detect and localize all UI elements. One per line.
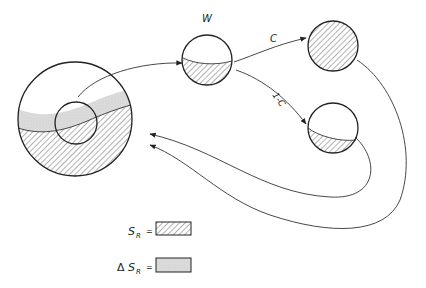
legend-delta-symbol: Δ [117, 261, 125, 274]
legend-sr-symbol: S [128, 225, 135, 238]
legend-sr: S R = [128, 222, 191, 240]
legend-sr-equals: = [146, 227, 153, 236]
legend: S R = Δ S R = [117, 222, 191, 276]
w-sphere [180, 35, 234, 90]
legend-delta-sr: Δ S R = [117, 258, 191, 276]
legend-delta-sr-subscript: R [136, 268, 141, 276]
legend-delta-sr-equals: = [146, 263, 153, 272]
legend-sr-subscript: R [136, 232, 141, 240]
w-label: W [202, 13, 213, 24]
edge-return-outer [150, 60, 406, 229]
legend-delta-sr-symbol: S [128, 261, 135, 274]
edge-c-label: C [270, 33, 277, 44]
legend-delta-sr-swatch [156, 258, 191, 272]
edge-source-to-w [78, 63, 182, 97]
legend-sr-swatch [156, 222, 191, 235]
diagram-canvas: W C 1-C S R = Δ S R = [0, 0, 426, 288]
c-output-sphere [308, 21, 358, 71]
source-sphere [15, 62, 135, 180]
one-minus-c-output-sphere [306, 103, 358, 160]
edge-one-minus-c-label: 1-C [270, 90, 287, 109]
